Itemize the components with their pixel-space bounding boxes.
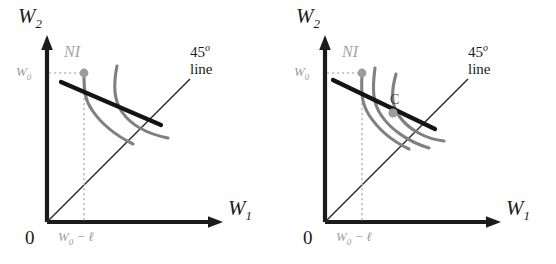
indifference-curve-right-3 bbox=[393, 74, 444, 141]
left-panel-svg bbox=[0, 0, 278, 264]
indifference-curve-left-2 bbox=[115, 66, 168, 138]
dotted-guides-left bbox=[49, 73, 84, 221]
budget-line-right bbox=[333, 80, 435, 129]
x-axis-right bbox=[325, 216, 501, 228]
figure-root: W2 W1 0 W0 W0 − ℓ NI 45o line bbox=[0, 0, 556, 264]
budget-line-left bbox=[61, 82, 161, 125]
diagram-panel-left: W2 W1 0 W0 W0 − ℓ NI 45o line bbox=[0, 0, 278, 264]
forty-five-degree-line-left bbox=[47, 79, 190, 222]
x-axis-left bbox=[47, 216, 223, 228]
forty-five-degree-line-right bbox=[325, 79, 468, 222]
endowment-point-ni-right bbox=[358, 69, 367, 78]
y-axis-right bbox=[319, 35, 331, 222]
optimum-point-c bbox=[388, 108, 397, 117]
indifference-curve-right-2 bbox=[373, 68, 429, 148]
dotted-guides-right bbox=[327, 73, 362, 221]
right-panel-svg bbox=[278, 0, 556, 264]
y-axis-left bbox=[41, 35, 53, 222]
diagram-panel-right: W2 W1 0 W0 W0 − ℓ NI 45o line C bbox=[278, 0, 556, 264]
endowment-point-ni-left bbox=[80, 69, 89, 78]
